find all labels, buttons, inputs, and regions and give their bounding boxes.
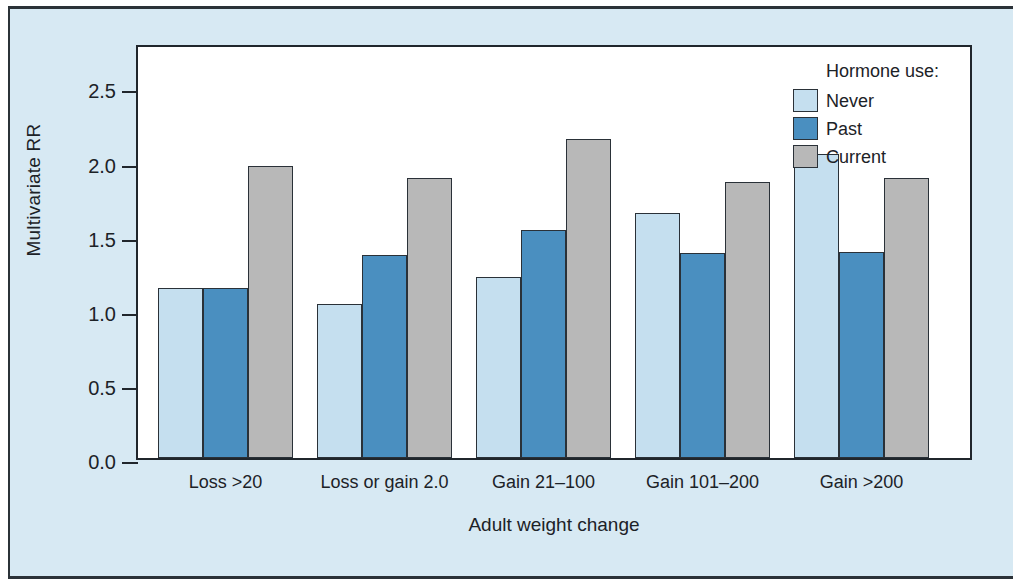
bar-past[interactable] [839, 252, 884, 458]
bar-never[interactable] [794, 154, 839, 458]
bar-current[interactable] [407, 178, 452, 458]
legend-label: Past [826, 120, 862, 138]
figure-panel: 0.00.51.01.52.02.5 Loss >20Loss or gain … [8, 6, 1013, 579]
y-axis-tick [122, 462, 138, 464]
bar-group [317, 47, 452, 458]
plot-area: 0.00.51.01.52.02.5 Loss >20Loss or gain … [136, 45, 972, 460]
legend-swatch-past [793, 117, 818, 140]
y-axis-tick-label: 0.0 [88, 451, 116, 474]
bar-current[interactable] [884, 178, 929, 458]
bar-group [476, 47, 611, 458]
y-axis-tick [122, 314, 138, 316]
bar-current[interactable] [248, 166, 293, 458]
x-axis-tick-label: Gain >200 [820, 472, 904, 493]
x-axis-title: Adult weight change [136, 514, 972, 536]
bar-past[interactable] [521, 230, 566, 458]
legend-item-past[interactable]: Past [793, 117, 939, 140]
bar-past[interactable] [680, 253, 725, 458]
bar-current[interactable] [725, 182, 770, 458]
y-axis-tick-label: 1.5 [88, 228, 116, 251]
legend: Hormone use: NeverPastCurrent [793, 61, 939, 173]
bar-past[interactable] [203, 288, 248, 458]
y-axis-tick [122, 91, 138, 93]
legend-item-never[interactable]: Never [793, 89, 939, 112]
y-axis-tick-label: 1.0 [88, 302, 116, 325]
legend-title: Hormone use: [826, 61, 939, 82]
x-axis-tick-label: Gain 21–100 [492, 472, 595, 493]
x-axis-tick-label: Loss or gain 2.0 [320, 472, 448, 493]
y-axis-tick-label: 2.0 [88, 154, 116, 177]
legend-label: Never [826, 92, 874, 110]
bar-never[interactable] [635, 213, 680, 458]
legend-label: Current [826, 148, 886, 166]
legend-item-current[interactable]: Current [793, 145, 939, 168]
legend-swatch-current [793, 145, 818, 168]
bar-current[interactable] [566, 139, 611, 458]
y-axis-tick [122, 166, 138, 168]
legend-swatch-never [793, 89, 818, 112]
legend-entries: NeverPastCurrent [793, 89, 939, 168]
bar-group [635, 47, 770, 458]
y-axis-tick-label: 0.5 [88, 376, 116, 399]
bar-group [158, 47, 293, 458]
bar-never[interactable] [476, 277, 521, 458]
x-axis-tick-label: Loss >20 [189, 472, 263, 493]
x-axis-tick-label: Gain 101–200 [646, 472, 759, 493]
y-axis-tick-label: 2.5 [88, 80, 116, 103]
y-axis-tick [122, 388, 138, 390]
y-axis-tick [122, 240, 138, 242]
bar-never[interactable] [158, 288, 203, 458]
y-axis-title: Multivariate RR [23, 70, 45, 310]
bar-past[interactable] [362, 255, 407, 458]
bar-never[interactable] [317, 304, 362, 458]
